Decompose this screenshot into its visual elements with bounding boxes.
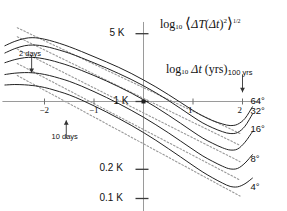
arrow-head-hundred-yrs	[240, 88, 245, 93]
y-axis-title-sub: 10	[175, 23, 182, 31]
annotation-two-days: 2 days	[19, 50, 41, 58]
x-axis-title-log: log	[166, 62, 181, 76]
x-axis-title: log10 Δt (yrs)	[166, 63, 227, 76]
arrow-head-ten-days	[64, 120, 69, 125]
x-axis-title-unit: (yrs)	[205, 62, 228, 76]
x-tick-label-2: 1	[188, 106, 193, 115]
y-axis-title-dT: ΔT	[191, 17, 205, 31]
ref-32	[17, 37, 240, 146]
y-axis-title-log: log	[160, 17, 175, 31]
reference-lines-group	[17, 28, 240, 196]
annotation-ten-days: 10 days	[52, 133, 78, 141]
y-tick-label-1: 1 K	[114, 96, 129, 106]
y-tick-label-0: 5 K	[110, 28, 125, 38]
chart-figure: log10 ⟨ΔT(Δt)2⟩1/2 log10 Δt (yrs) 5 K1 K…	[0, 0, 287, 211]
y-axis-title: log10 ⟨ΔT(Δt)2⟩1/2	[160, 16, 241, 31]
y-tick-label-3: 0.1 K	[100, 193, 123, 203]
series-label-8°: 8°	[250, 154, 259, 164]
y-tick-label-2: 0.2 K	[100, 163, 123, 173]
y-axis-title-dt: Δt	[209, 17, 219, 31]
series-label-4°: 4°	[250, 182, 259, 192]
x-tick-label-3: 2	[238, 106, 243, 115]
x-tick-label-0: −2	[40, 106, 50, 115]
x-axis-title-dt: Δt	[191, 62, 201, 76]
series-label-32°: 32°	[250, 106, 264, 116]
y-axis-title-exponent: 1/2	[233, 18, 241, 24]
series-label-16°: 16°	[250, 124, 264, 134]
series-label-64°: 64°	[250, 96, 264, 106]
x-tick-label-1: −1	[89, 106, 99, 115]
annotation-hundred-yrs: 100 yrs	[228, 69, 253, 77]
x-axis-title-sub: 10	[181, 68, 188, 76]
